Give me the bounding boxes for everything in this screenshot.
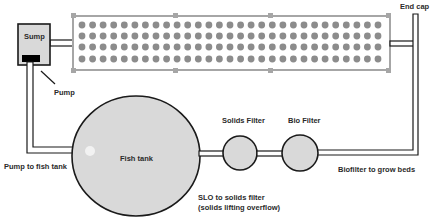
plant-icon bbox=[332, 33, 339, 40]
solids-filter bbox=[223, 136, 257, 170]
plant-icon bbox=[354, 56, 361, 63]
plant-icon bbox=[332, 22, 339, 29]
grow-bed-post bbox=[71, 13, 76, 18]
plant-icon bbox=[227, 44, 234, 51]
plant-icon bbox=[79, 22, 86, 29]
plant-icon bbox=[89, 56, 96, 63]
plant-icon bbox=[132, 56, 139, 63]
plant-icon bbox=[290, 44, 297, 51]
plant-icon bbox=[89, 33, 96, 40]
plant-icon bbox=[184, 22, 191, 29]
plant-icon bbox=[332, 56, 339, 63]
plant-icon bbox=[354, 33, 361, 40]
sump bbox=[18, 24, 50, 65]
plant-icon bbox=[121, 22, 128, 29]
plant-icon bbox=[343, 22, 350, 29]
plant-icon bbox=[89, 44, 96, 51]
plant-icon bbox=[110, 44, 117, 51]
plant-icon bbox=[311, 33, 318, 40]
fish-tank-label: Fish tank bbox=[120, 155, 153, 163]
plant-icon bbox=[206, 33, 213, 40]
plant-icon bbox=[301, 22, 308, 29]
plant-icon bbox=[100, 33, 107, 40]
plant-icon bbox=[375, 22, 382, 29]
plant-icon bbox=[174, 22, 181, 29]
plant-icon bbox=[184, 44, 191, 51]
plant-icon bbox=[280, 33, 287, 40]
plant-icon bbox=[195, 56, 202, 63]
plant-icon bbox=[343, 33, 350, 40]
pipe-sump-to-grow-bed bbox=[50, 40, 74, 46]
plant-icon bbox=[79, 44, 86, 51]
pipe-solids-to-bio-filter bbox=[257, 151, 283, 156]
plant-icon bbox=[269, 33, 276, 40]
plant-icon bbox=[216, 22, 223, 29]
plant-icon bbox=[237, 33, 244, 40]
plant-icon bbox=[184, 56, 191, 63]
plant-icon bbox=[216, 56, 223, 63]
plant-icon bbox=[322, 22, 329, 29]
plant-icon bbox=[248, 33, 255, 40]
plant-icon bbox=[195, 44, 202, 51]
plant-icon bbox=[142, 56, 149, 63]
plant-icon bbox=[364, 44, 371, 51]
plant-icon bbox=[375, 56, 382, 63]
plant-icon bbox=[375, 44, 382, 51]
plant-icon bbox=[79, 56, 86, 63]
grow-bed-post bbox=[173, 68, 178, 73]
plant-icon bbox=[258, 33, 265, 40]
plant-icon bbox=[375, 33, 382, 40]
slo-label-line2: (solids lifting overflow) bbox=[198, 203, 280, 213]
plant-icon bbox=[100, 56, 107, 63]
plant-icon bbox=[343, 56, 350, 63]
plant-icon bbox=[311, 22, 318, 29]
plant-icon bbox=[110, 56, 117, 63]
plant-icon bbox=[79, 33, 86, 40]
plant-icon bbox=[153, 56, 160, 63]
plant-icon bbox=[343, 44, 350, 51]
plant-icon bbox=[195, 22, 202, 29]
plant-icon bbox=[269, 56, 276, 63]
plant-icon bbox=[174, 44, 181, 51]
plant-icon bbox=[163, 33, 170, 40]
pump bbox=[22, 55, 40, 62]
plant-icon bbox=[364, 33, 371, 40]
plant-icon bbox=[311, 44, 318, 51]
pipe-slo-to-solids-filter bbox=[199, 151, 224, 156]
plant-icon bbox=[195, 33, 202, 40]
plant-icon bbox=[280, 22, 287, 29]
grow-bed-post bbox=[268, 13, 273, 18]
plant-icon bbox=[332, 44, 339, 51]
pump-pointer-line bbox=[41, 71, 55, 84]
slo-label-line1: SLO to solids filter bbox=[198, 193, 280, 203]
plant-icon bbox=[301, 44, 308, 51]
plant-icon bbox=[100, 44, 107, 51]
plant-icon bbox=[132, 22, 139, 29]
plant-icon bbox=[174, 56, 181, 63]
pipe-grow-bed-to-end-cap bbox=[390, 41, 415, 46]
plant-icon bbox=[258, 56, 265, 63]
plant-icon bbox=[248, 44, 255, 51]
plant-icon bbox=[153, 22, 160, 29]
plant-icon bbox=[216, 33, 223, 40]
grow-bed-post bbox=[173, 13, 178, 18]
plant-icon bbox=[163, 44, 170, 51]
end-cap-label: End cap bbox=[400, 3, 429, 11]
plant-icon bbox=[121, 56, 128, 63]
plant-icon bbox=[248, 56, 255, 63]
plant-icon bbox=[121, 33, 128, 40]
grow-bed-post bbox=[386, 68, 391, 73]
plant-icon bbox=[322, 56, 329, 63]
grow-bed bbox=[71, 13, 391, 73]
pump-label: Pump bbox=[54, 89, 75, 97]
aquaponics-diagram bbox=[0, 0, 432, 222]
plant-icon bbox=[206, 44, 213, 51]
plant-icon bbox=[364, 22, 371, 29]
solids-filter-label: Solids Filter bbox=[222, 117, 265, 125]
plant-icon bbox=[121, 44, 128, 51]
plant-icon bbox=[216, 44, 223, 51]
plant-icon bbox=[89, 22, 96, 29]
plant-icon bbox=[354, 44, 361, 51]
bio-filter-label: Bio Filter bbox=[288, 117, 321, 125]
plant-icon bbox=[290, 33, 297, 40]
